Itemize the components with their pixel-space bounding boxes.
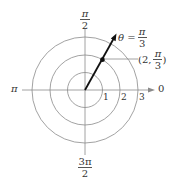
label-pi-over-2: π 2 bbox=[78, 9, 92, 30]
radius-label-2: 2 bbox=[121, 92, 127, 102]
ray-label-den: 3 bbox=[138, 39, 147, 48]
ray-label-prefix: θ = bbox=[118, 32, 136, 43]
label-pi-over-2-num: π bbox=[78, 9, 92, 18]
ray-label-num: π bbox=[138, 27, 147, 36]
ray-theta-pi-over-3 bbox=[85, 38, 114, 90]
label-pi: π bbox=[11, 83, 18, 94]
point-label: (2, π 3 ) bbox=[138, 49, 166, 70]
point-marker bbox=[100, 57, 105, 62]
radius-label-3: 3 bbox=[139, 92, 145, 102]
point-label-num: π bbox=[153, 49, 162, 58]
label-3pi-over-2-num: 3π bbox=[76, 157, 94, 166]
label-pi-over-2-den: 2 bbox=[78, 21, 92, 30]
arrow-right-icon bbox=[148, 88, 155, 93]
radius-label-1: 1 bbox=[103, 92, 109, 102]
label-3pi-over-2: 3π 2 bbox=[76, 157, 94, 178]
label-3pi-over-2-den: 2 bbox=[76, 169, 94, 178]
label-zero: 0 bbox=[158, 83, 164, 94]
point-label-den: 3 bbox=[153, 61, 162, 70]
point-label-close: ) bbox=[162, 54, 166, 65]
ray-arrow-icon bbox=[111, 34, 117, 42]
point-label-open: (2, bbox=[138, 54, 151, 65]
ray-label: θ = π 3 bbox=[118, 27, 147, 48]
